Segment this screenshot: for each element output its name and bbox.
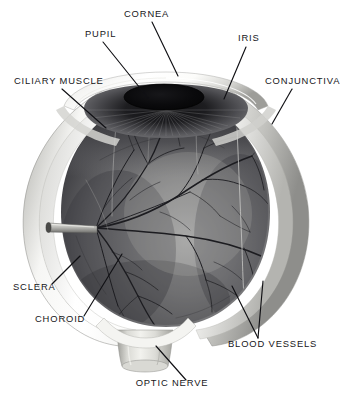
label-ciliary-muscle: CILIARY MUSCLE <box>14 75 104 86</box>
eye-anatomy-figure: CORNEA PUPIL IRIS CILIARY MUSCLE CONJUNC… <box>0 0 344 393</box>
label-blood-vessels: BLOOD VESSELS <box>228 338 317 349</box>
leader-cornea <box>152 22 178 76</box>
label-iris: IRIS <box>238 32 260 43</box>
label-pupil: PUPIL <box>85 28 116 39</box>
label-optic-nerve: OPTIC NERVE <box>136 377 209 388</box>
label-cornea: CORNEA <box>124 8 169 19</box>
eyeball-body <box>23 72 309 372</box>
leader-conjunctiva <box>272 89 292 124</box>
eye-diagram: CORNEA PUPIL IRIS CILIARY MUSCLE CONJUNC… <box>0 0 344 393</box>
label-conjunctiva: CONJUNCTIVA <box>265 75 340 86</box>
label-choroid: CHOROID <box>35 313 85 324</box>
label-sclera: SCLERA <box>13 281 56 292</box>
